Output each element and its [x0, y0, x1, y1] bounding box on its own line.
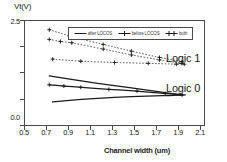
data-point-marker: [51, 57, 55, 61]
series-line-5: [53, 95, 186, 102]
legend-swatch-after-locos: [74, 30, 87, 37]
data-point-marker: [107, 87, 111, 91]
data-point-marker: [47, 28, 51, 32]
series-line-2: [53, 59, 185, 64]
data-point-marker: [113, 61, 117, 65]
legend-swatch-before-locos: [118, 30, 131, 37]
data-point-marker: [146, 61, 150, 65]
legend-label-both: both: [179, 31, 187, 37]
y-axis-ticks: [20, 21, 25, 126]
plot-area: [0, 0, 227, 162]
annotation-logic-0: Logic 0: [166, 82, 200, 94]
legend-entry-after-locos[interactable]: after LOCOS: [74, 30, 112, 37]
data-point-marker: [129, 53, 133, 57]
legend-swatch-both: [165, 30, 178, 37]
data-point-marker: [129, 49, 133, 53]
legend-entry-both[interactable]: both: [165, 30, 187, 37]
data-point-marker: [62, 84, 66, 88]
series-line-1: [49, 39, 182, 63]
data-point-marker: [70, 41, 74, 45]
series-line-3: [49, 76, 182, 95]
annotation-logic-1: Logic 1: [166, 52, 200, 64]
chart-figure: Vt(V) 2.5 0.0 0.5 0.7 0.9 1.1 1.3 1.5 1.…: [0, 0, 227, 162]
data-point-marker: [79, 59, 83, 63]
data-point-marker: [47, 83, 51, 87]
data-point-marker: [135, 89, 139, 93]
legend-label-before-locos: before LOCOS: [132, 31, 160, 37]
logic0-series-group: [49, 76, 185, 102]
data-point-marker: [101, 47, 105, 51]
data-point-marker: [79, 85, 83, 89]
x-axis-ticks: [25, 126, 201, 131]
legend-label-after-locos: after LOCOS: [88, 31, 112, 37]
data-point-marker: [59, 40, 63, 44]
legend-entry-before-locos[interactable]: before LOCOS: [118, 30, 160, 37]
chart-legend: after LOCOS before LOCOS both: [68, 27, 193, 40]
data-point-marker: [47, 37, 51, 41]
data-point-marker: [158, 58, 162, 62]
data-point-marker: [101, 42, 105, 46]
